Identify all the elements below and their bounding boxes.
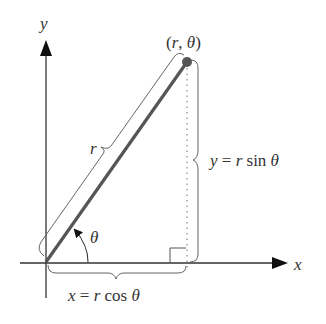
x-equation-label: x = r cos θ xyxy=(67,286,140,305)
y-axis-label: y xyxy=(38,14,48,33)
radius-segment xyxy=(46,62,187,262)
x-axis xyxy=(20,257,288,269)
point-marker xyxy=(182,57,192,67)
theta-arc xyxy=(75,230,88,262)
polar-coordinates-diagram: y x (r, θ) r θ y = r sin θ x = r cos θ xyxy=(0,0,326,324)
x-brace xyxy=(48,265,186,279)
r-brace xyxy=(39,53,184,256)
y-axis-arrowhead-icon xyxy=(40,40,52,56)
x-axis-label: x xyxy=(293,255,302,274)
right-angle-marker xyxy=(170,248,186,263)
x-axis-arrowhead-icon xyxy=(272,257,288,269)
point-label: (r, θ) xyxy=(166,33,201,52)
y-brace xyxy=(190,60,198,262)
y-equation-label: y = r sin θ xyxy=(208,151,279,170)
angle-label: θ xyxy=(90,228,98,247)
radius-label: r xyxy=(90,139,97,158)
